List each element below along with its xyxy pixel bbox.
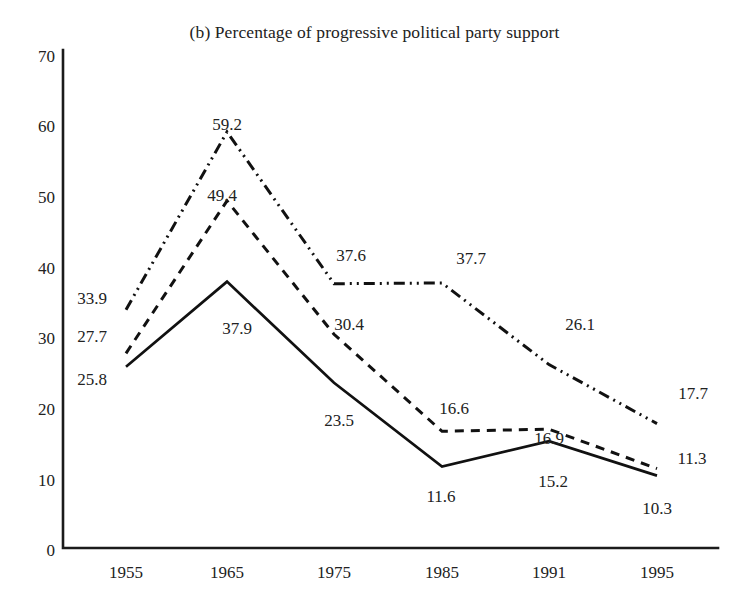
- x-tick-1975: 1975: [317, 563, 351, 582]
- chart-page: (b) Percentage of progressive political …: [0, 0, 749, 609]
- value-label-solid-1975: 23.5: [324, 411, 354, 430]
- y-tick-60: 60: [38, 117, 55, 136]
- y-tick-30: 30: [38, 329, 55, 348]
- value-label-dashed-1965: 49.4: [207, 186, 237, 205]
- series-line-dash-dot: [126, 132, 657, 424]
- y-tick-50: 50: [38, 188, 55, 207]
- value-label-solid-1995: 10.3: [642, 499, 672, 518]
- value-label-dashdot-1991: 26.1: [565, 315, 595, 334]
- y-tick-10: 10: [38, 471, 55, 490]
- x-tick-1995: 1995: [640, 563, 674, 582]
- line-chart-canvas: 70 60 50 40 30 20 10 0 1955 1965 1975 19…: [0, 0, 749, 609]
- value-label-solid-1965: 37.9: [222, 319, 252, 338]
- value-label-dashed-1985: 16.6: [439, 399, 469, 418]
- y-tick-20: 20: [38, 400, 55, 419]
- y-axis-ticks: 70 60 50 40 30 20 10 0: [38, 47, 55, 560]
- x-axis-ticks: 1955 1965 1975 1985 1991 1995: [109, 563, 674, 582]
- value-label-solid-1991: 15.2: [538, 472, 568, 491]
- value-label-dashed-1955: 27.7: [77, 327, 107, 346]
- value-label-dashdot-1995: 17.7: [678, 384, 708, 403]
- value-label-dashdot-1965: 59.2: [212, 115, 242, 134]
- value-label-dashed-1991: 16.9: [534, 429, 564, 448]
- value-label-dashed-1995: 11.3: [677, 449, 706, 468]
- y-tick-40: 40: [38, 259, 55, 278]
- value-labels-dash-dot: 33.9 59.2 37.6 37.7 26.1 17.7: [77, 115, 708, 403]
- x-tick-1991: 1991: [532, 563, 566, 582]
- value-label-dashdot-1985: 37.7: [456, 249, 486, 268]
- x-tick-1985: 1985: [425, 563, 459, 582]
- x-tick-1965: 1965: [210, 563, 244, 582]
- x-tick-1955: 1955: [109, 563, 143, 582]
- y-tick-70: 70: [38, 47, 55, 66]
- value-label-dashdot-1955: 33.9: [77, 289, 107, 308]
- y-tick-0: 0: [47, 541, 56, 560]
- value-label-solid-1955: 25.8: [77, 370, 107, 389]
- value-label-dashdot-1975: 37.6: [336, 246, 366, 265]
- value-labels-solid: 25.8 37.9 23.5 11.6 15.2 10.3: [77, 319, 672, 518]
- value-label-dashed-1975: 30.4: [334, 315, 364, 334]
- value-label-solid-1985: 11.6: [426, 487, 455, 506]
